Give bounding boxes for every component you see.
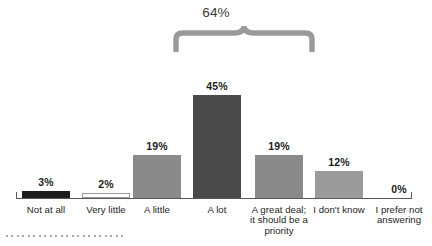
bar-value-label: 45% <box>206 80 227 92</box>
bar <box>22 191 70 198</box>
bar <box>193 95 241 198</box>
bar-chart: 64% 3%2%19%45%19%12%0% Not at allVery li… <box>0 0 432 246</box>
rule-dot <box>44 235 46 237</box>
bar-value-label: 12% <box>328 156 349 168</box>
x-axis-tick-right <box>411 192 412 199</box>
rule-dot <box>17 235 19 237</box>
rule-dot <box>55 235 57 237</box>
rule-dot <box>39 235 41 237</box>
rule-dot <box>66 235 68 237</box>
rule-dot <box>28 235 30 237</box>
bar-value-label: 19% <box>146 140 167 152</box>
rule-dot <box>33 235 35 237</box>
category-label: A lot <box>182 205 252 215</box>
rule-dot <box>6 235 8 237</box>
rule-dot <box>50 235 52 237</box>
rule-dot <box>61 235 63 237</box>
bar-value-label: 3% <box>38 176 53 188</box>
rule-dot <box>121 235 123 237</box>
bar-value-label: 2% <box>98 178 113 190</box>
rule-dot <box>11 235 13 237</box>
rule-dot <box>116 235 118 237</box>
bar <box>315 171 363 198</box>
category-label: I prefer not answering <box>364 205 432 226</box>
bar <box>133 155 181 198</box>
rule-dot <box>83 235 85 237</box>
rule-dot <box>105 235 107 237</box>
bar <box>82 193 130 198</box>
bar <box>255 155 303 198</box>
rule-dot <box>22 235 24 237</box>
rule-dot <box>94 235 96 237</box>
rule-dot <box>72 235 74 237</box>
dotted-rule-decoration <box>6 235 123 237</box>
x-axis-tick-left <box>16 192 17 199</box>
rule-dot <box>99 235 101 237</box>
rule-dot <box>77 235 79 237</box>
bar-value-label: 19% <box>268 140 289 152</box>
bar-value-label: 0% <box>391 183 406 195</box>
x-axis-line <box>16 198 412 199</box>
plot-area: 3%2%19%45%19%12%0% Not at allVery little… <box>0 0 432 246</box>
rule-dot <box>110 235 112 237</box>
rule-dot <box>88 235 90 237</box>
